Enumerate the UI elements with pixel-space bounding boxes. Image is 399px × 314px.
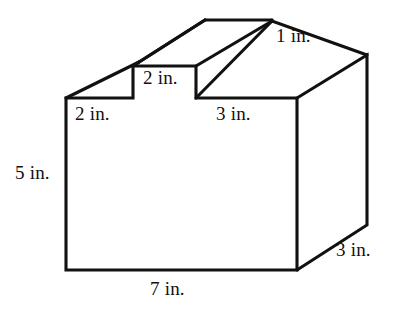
dimension-label-depth-right: 3 in. — [336, 240, 371, 259]
solid-faces — [66, 20, 367, 270]
dimension-label-top-right-rise: 1 in. — [276, 26, 311, 45]
stepped-solid-drawing — [0, 0, 399, 314]
dimension-label-front-right-top: 3 in. — [216, 104, 251, 123]
dimension-label-bottom-width: 7 in. — [150, 279, 185, 298]
dimension-label-notch-tread: 2 in. — [143, 68, 178, 87]
dimension-label-front-left-top: 2 in. — [75, 104, 110, 123]
figure-canvas: 1 in. 2 in. 2 in. 3 in. 5 in. 3 in. 7 in… — [0, 0, 399, 314]
dimension-label-left-height: 5 in. — [15, 163, 50, 182]
